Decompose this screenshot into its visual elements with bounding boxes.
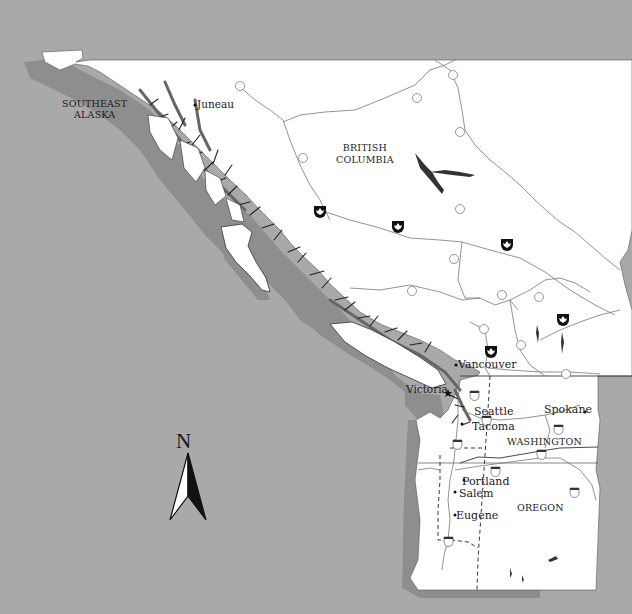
label-southeast-alaska: SOUTHEAST ALASKA [62, 99, 127, 119]
highway-shield-icon [480, 325, 489, 334]
label-portland: Portland [462, 476, 509, 487]
park-marker-icon [501, 239, 513, 251]
highway-shield-icon [562, 370, 571, 379]
interstate-shield-icon [570, 488, 579, 498]
label-british-columbia: BRITISH COLUMBIA [336, 143, 394, 164]
label-salem: Salem [459, 488, 494, 499]
highway-shield-icon [498, 291, 507, 300]
highway-shield-icon [413, 94, 422, 103]
highway-shield-icon [236, 82, 245, 91]
map-canvas [0, 0, 632, 614]
interstate-shield-icon [470, 391, 479, 401]
interstate-shield-icon [554, 425, 563, 435]
label-british-columbia-line2: COLUMBIA [336, 155, 394, 165]
label-juneau: Juneau [197, 99, 234, 110]
label-victoria: Victoria [406, 384, 448, 395]
highway-shield-icon [449, 71, 458, 80]
label-southeast-alaska-line1: SOUTHEAST [62, 99, 127, 109]
label-spokane: Spokane [544, 404, 592, 415]
label-seattle: Seattle [474, 406, 513, 417]
label-tacoma: Tacoma [472, 421, 515, 432]
park-marker-icon [557, 314, 569, 326]
park-marker-icon [485, 346, 497, 358]
label-vancouver: Vancouver [458, 359, 516, 370]
label-washington: WASHINGTON [507, 437, 582, 447]
highway-shield-icon [535, 293, 544, 302]
label-british-columbia-line1: BRITISH [336, 143, 394, 153]
compass-north-label: N [176, 429, 191, 454]
park-marker-icon [314, 206, 326, 218]
interstate-shield-icon [537, 450, 546, 460]
highway-shield-icon [456, 128, 465, 137]
label-southeast-alaska-line2: ALASKA [62, 110, 127, 120]
highway-shield-icon [450, 255, 459, 264]
park-marker-icon [392, 221, 404, 233]
highway-shield-icon [299, 154, 308, 163]
interstate-shield-icon [444, 537, 453, 547]
interstate-shield-icon [453, 440, 462, 450]
label-eugene: Eugene [456, 510, 498, 521]
label-oregon: OREGON [517, 503, 564, 513]
highway-shield-icon [408, 287, 417, 296]
map-container: SOUTHEAST ALASKA BRITISH COLUMBIA WASHIN… [0, 0, 632, 614]
highway-shield-icon [456, 205, 465, 214]
highway-shield-icon [517, 341, 526, 350]
